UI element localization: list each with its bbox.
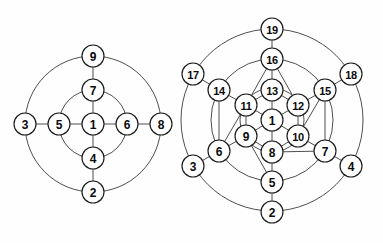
- node-12[interactable]: 12: [287, 94, 309, 116]
- node-13[interactable]: 13: [261, 79, 283, 101]
- node-label-5: 5: [269, 176, 276, 190]
- node-label-12: 12: [292, 100, 304, 112]
- right-diagram: 11312108911161575614191842317: [181, 18, 363, 223]
- edge-13-12: [282, 95, 289, 99]
- node-label-7: 7: [322, 145, 329, 159]
- node-label-18: 18: [345, 69, 357, 81]
- node-label-17: 17: [187, 69, 199, 81]
- node-label-13: 13: [266, 85, 278, 97]
- node-18[interactable]: 18: [340, 63, 362, 85]
- node-7[interactable]: 7: [314, 140, 336, 162]
- node-8[interactable]: 8: [261, 141, 283, 163]
- node-label-4: 4: [90, 152, 97, 166]
- node-label-15: 15: [319, 85, 331, 97]
- diagram-canvas: 176459823 11312108911161575614191842317: [0, 0, 383, 243]
- node-16[interactable]: 16: [261, 48, 283, 70]
- node-4[interactable]: 4: [82, 147, 104, 169]
- edge-1-11: [256, 110, 263, 114]
- edge-9-6: [229, 141, 237, 145]
- edge-8-9: [255, 142, 262, 146]
- node-label-9: 9: [243, 130, 250, 144]
- node-label-8: 8: [158, 118, 165, 132]
- node-label-4: 4: [348, 160, 355, 174]
- node-3[interactable]: 3: [182, 155, 204, 177]
- edge-10-8: [281, 142, 288, 146]
- node-label-2: 2: [269, 206, 276, 220]
- node-label-1: 1: [90, 118, 97, 132]
- edge-14-17: [202, 80, 209, 84]
- concentric-network-diagrams: 176459823 11312108911161575614191842317: [0, 0, 383, 243]
- node-17[interactable]: 17: [182, 63, 204, 85]
- edge-12-15: [308, 95, 316, 99]
- node-label-6: 6: [124, 118, 131, 132]
- node-14[interactable]: 14: [208, 79, 230, 101]
- node-9[interactable]: 9: [82, 45, 104, 67]
- node-label-14: 14: [213, 85, 226, 97]
- node-3[interactable]: 3: [14, 113, 36, 135]
- node-label-6: 6: [216, 145, 223, 159]
- edge-11-14: [229, 95, 237, 99]
- node-label-3: 3: [22, 118, 29, 132]
- edge-1-9: [255, 126, 262, 130]
- node-label-7: 7: [90, 84, 97, 98]
- left-diagram: 176459823: [14, 45, 172, 203]
- node-label-19: 19: [266, 24, 278, 36]
- nineteen-node-concentric-diagram-nodes: 11312108911161575614191842317: [182, 18, 362, 223]
- node-label-9: 9: [90, 50, 97, 64]
- node-9[interactable]: 9: [235, 125, 257, 147]
- edge-1-10: [281, 126, 288, 130]
- node-label-16: 16: [266, 54, 278, 66]
- node-7[interactable]: 7: [82, 79, 104, 101]
- node-2[interactable]: 2: [261, 201, 283, 223]
- node-8[interactable]: 8: [150, 113, 172, 135]
- node-label-8: 8: [269, 146, 276, 160]
- edge-10-7: [308, 141, 316, 145]
- node-1[interactable]: 1: [82, 113, 104, 135]
- node-10[interactable]: 10: [287, 125, 309, 147]
- node-label-1: 1: [269, 114, 276, 128]
- edge-6-3: [203, 156, 210, 160]
- node-label-11: 11: [241, 100, 252, 112]
- node-6[interactable]: 6: [116, 113, 138, 135]
- node-label-5: 5: [56, 118, 63, 132]
- node-11[interactable]: 11: [235, 94, 257, 116]
- edge-8-7: [283, 151, 314, 152]
- node-5[interactable]: 5: [48, 113, 70, 135]
- node-label-10: 10: [292, 131, 304, 143]
- edge-7-4: [335, 156, 342, 160]
- node-4[interactable]: 4: [340, 155, 362, 177]
- node-6[interactable]: 6: [208, 140, 230, 162]
- edge-13-11: [256, 95, 263, 99]
- edge-15-18: [334, 80, 341, 84]
- node-1[interactable]: 1: [261, 109, 283, 131]
- node-label-2: 2: [90, 186, 97, 200]
- node-15[interactable]: 15: [314, 79, 336, 101]
- node-5[interactable]: 5: [261, 171, 283, 193]
- edge-1-12: [282, 110, 289, 114]
- node-label-3: 3: [190, 160, 197, 174]
- node-19[interactable]: 19: [261, 18, 283, 40]
- node-2[interactable]: 2: [82, 181, 104, 203]
